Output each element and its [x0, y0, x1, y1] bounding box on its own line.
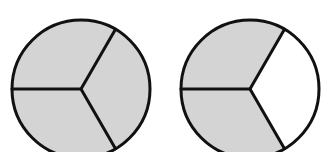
- fraction-circle-right: [181, 20, 319, 152]
- fraction-circle-left: [12, 20, 150, 152]
- fraction-diagram: [0, 0, 331, 152]
